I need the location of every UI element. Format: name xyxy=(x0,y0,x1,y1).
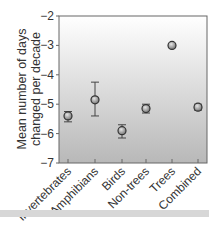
data-point xyxy=(142,104,150,113)
bottom-band xyxy=(0,210,209,217)
data-point xyxy=(168,41,176,49)
y-label-line: changed per decade xyxy=(29,32,43,146)
y-label-line: Mean number of days xyxy=(15,29,29,150)
y-tick-label: −7 xyxy=(40,156,54,170)
plot-area xyxy=(59,16,207,163)
y-axis: −2−3−4−5−6−7 xyxy=(40,9,59,170)
data-point xyxy=(194,103,202,111)
y-axis-label: Mean number of dayschanged per decade xyxy=(15,29,43,150)
chart: −2−3−4−5−6−7 Mean number of dayschanged … xyxy=(0,0,217,227)
y-tick-label: −2 xyxy=(40,9,54,23)
